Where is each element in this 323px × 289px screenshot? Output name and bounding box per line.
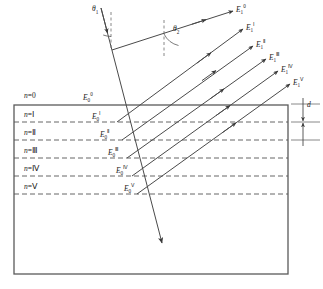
- incident-field-label-1: E0Ⅰ: [92, 111, 100, 122]
- thickness-symbol: d: [307, 100, 311, 109]
- layer-label-0: n=0: [24, 92, 36, 100]
- thickness-label: d: [307, 101, 311, 109]
- layer-value-4: Ⅳ: [32, 164, 39, 173]
- reflected-field-sup-4: Ⅳ: [288, 63, 293, 69]
- reflected-field-sub-2: 1: [261, 44, 264, 50]
- incident-field-sup-4: Ⅳ: [123, 164, 128, 170]
- theta2-label: θ2: [173, 25, 179, 35]
- reflected-ray-direction-arrows: [192, 20, 236, 133]
- layer-value-0: 0: [32, 91, 36, 100]
- incident-field-sub-2: 0: [105, 134, 108, 140]
- reflected-field-sub-4: 1: [286, 69, 289, 75]
- reflected-field-sup-5: Ⅴ: [300, 76, 303, 82]
- reflected-field-label-5: E1Ⅴ: [293, 77, 303, 88]
- incident-field-label-0: E00: [83, 92, 93, 103]
- reflected-field-sup-3: Ⅲ: [276, 51, 279, 57]
- ray-arrow-1: [197, 53, 211, 63]
- reflected-field-sub-3: 1: [274, 57, 277, 63]
- layer-value-5: Ⅴ: [32, 182, 37, 191]
- incident-field-label-5: E0Ⅴ: [124, 183, 134, 194]
- incident-field-sub-5: 0: [129, 188, 132, 194]
- incident-field-sup-5: Ⅴ: [131, 182, 134, 188]
- layer-value-2: Ⅱ: [32, 128, 36, 137]
- incident-field-sup-2: Ⅱ: [107, 128, 109, 134]
- reflected-field-sub-0: 1: [241, 9, 244, 15]
- reflected-field-sup-1: Ⅰ: [253, 21, 254, 27]
- reflected-field-label-2: E1Ⅱ: [256, 39, 265, 50]
- reflected-ray-2: [122, 46, 253, 140]
- incident-field-label-2: E0Ⅱ: [100, 129, 109, 140]
- reflected-ray-4: [132, 71, 278, 176]
- incident-field-sup-0: 0: [90, 91, 93, 97]
- incident-field-label-3: E0Ⅲ: [108, 147, 118, 158]
- thickness-dimension: [291, 98, 320, 146]
- ray-diagram-figure: θ1 θ2 n=0 n=Ⅰ n=Ⅱ n=Ⅲ n=Ⅳ n=Ⅴ E00 E0Ⅰ E0…: [0, 0, 323, 289]
- theta1-angle-arc: [103, 35, 111, 37]
- ray-arrow-0: [192, 20, 206, 25]
- ray-arrow-2: [202, 71, 216, 81]
- reflected-field-label-1: E1Ⅰ: [246, 22, 254, 33]
- incident-field-sub-3: 0: [113, 152, 116, 158]
- reflected-ray-1: [117, 29, 243, 122]
- reflected-field-sub-1: 1: [251, 27, 254, 33]
- incident-field-sub-1: 0: [97, 116, 100, 122]
- diagram-canvas: [0, 0, 323, 289]
- incident-field-label-4: E0Ⅳ: [116, 165, 128, 176]
- incident-field-sup-1: Ⅰ: [99, 110, 100, 116]
- layer-label-5: n=Ⅴ: [24, 183, 37, 191]
- layer-label-1: n=Ⅰ: [24, 111, 34, 119]
- layer-label-4: n=Ⅳ: [24, 165, 39, 173]
- layer-interfaces: [14, 122, 288, 194]
- theta2-subscript: 2: [177, 29, 180, 35]
- reflected-field-label-3: E1Ⅲ: [269, 52, 279, 63]
- incident-field-sub-4: 0: [121, 170, 124, 176]
- layer-value-3: Ⅲ: [32, 146, 38, 155]
- theta2-angle-arc: [164, 34, 179, 46]
- theta1-subscript: 1: [96, 9, 99, 15]
- ray-arrow-3: [210, 89, 224, 99]
- incident-field-sub-0: 0: [88, 97, 91, 103]
- medium-slab-outline: [14, 105, 288, 274]
- ray-arrow-4: [216, 106, 230, 116]
- incident-field-sup-3: Ⅲ: [115, 146, 118, 152]
- layer-label-3: n=Ⅲ: [24, 147, 38, 155]
- layer-label-2: n=Ⅱ: [24, 129, 36, 137]
- reflected-field-sup-0: 0: [243, 3, 246, 9]
- reflected-ray-5: [137, 84, 290, 194]
- reflected-field-label-0: E10: [236, 4, 246, 15]
- theta1-label: θ1: [92, 5, 98, 15]
- reflected-ray-3: [127, 59, 266, 158]
- reflected-field-sup-2: Ⅱ: [263, 38, 265, 44]
- layer-value-1: Ⅰ: [32, 110, 34, 119]
- reflected-field-label-4: E1Ⅳ: [281, 64, 293, 75]
- ray-arrow-5: [222, 123, 236, 133]
- reflected-field-sub-5: 1: [298, 82, 301, 88]
- incident-ray-direction-arrow: [101, 8, 108, 33]
